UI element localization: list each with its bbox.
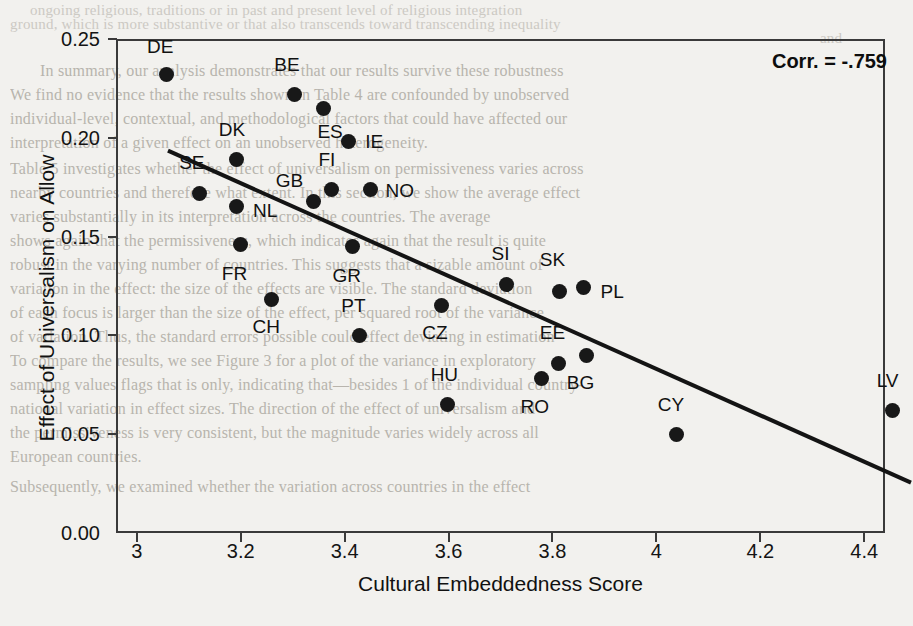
data-point-de	[159, 67, 174, 82]
x-tick-label: 3.8	[539, 540, 567, 563]
y-tick-mark	[108, 137, 117, 139]
point-label-gr: GR	[332, 265, 361, 287]
y-tick-mark	[108, 334, 117, 336]
point-label-de: DE	[147, 36, 173, 58]
point-label-ch: CH	[252, 316, 279, 338]
x-axis-label: Cultural Embeddedness Score	[116, 572, 885, 596]
point-label-ro: RO	[521, 396, 550, 418]
data-point-cz	[434, 298, 449, 313]
point-label-pt: PT	[341, 295, 365, 317]
x-tick-label: 4.4	[850, 540, 878, 563]
point-label-cz: CZ	[422, 322, 447, 344]
data-point-cy	[669, 427, 684, 442]
y-tick-label: 0.00	[0, 522, 100, 545]
data-point-gr	[345, 239, 360, 254]
point-label-be: BE	[274, 54, 299, 76]
x-tick-label: 4.2	[746, 540, 774, 563]
y-axis-label: Effect of Universalism on Allow	[35, 88, 59, 508]
point-label-bg: BG	[567, 372, 594, 394]
point-label-lv: LV	[877, 370, 899, 392]
y-tick-mark	[108, 433, 117, 435]
point-label-fi: FI	[319, 149, 336, 171]
point-label-sk: SK	[540, 249, 565, 271]
data-point-fi	[324, 182, 339, 197]
y-tick-label: 0.25	[0, 28, 100, 51]
data-point-hu	[440, 397, 455, 412]
point-label-ee: EE	[540, 322, 565, 344]
data-point-es	[316, 101, 331, 116]
data-point-pt	[352, 328, 367, 343]
x-tick-label: 3	[131, 540, 142, 563]
data-point-nl	[229, 199, 244, 214]
point-label-gb: GB	[276, 170, 303, 192]
data-point-bg	[579, 348, 594, 363]
point-label-dk: DK	[219, 119, 245, 141]
x-tick-label: 3.4	[331, 540, 359, 563]
point-label-ie: IE	[365, 131, 383, 153]
data-point-be	[287, 87, 302, 102]
point-label-nl: NL	[253, 200, 277, 222]
y-tick-mark	[108, 38, 117, 40]
data-point-ee	[551, 356, 566, 371]
data-point-dk	[229, 152, 244, 167]
x-tick-label: 3.2	[227, 540, 255, 563]
point-label-se: SE	[179, 152, 204, 174]
y-tick-mark	[108, 236, 117, 238]
point-label-no: NO	[385, 180, 414, 202]
correlation-annotation: Corr. = -.759	[772, 50, 887, 73]
data-point-se	[192, 186, 207, 201]
x-tick-label: 3.6	[435, 540, 463, 563]
point-label-hu: HU	[431, 364, 458, 386]
data-point-fr	[233, 237, 248, 252]
point-label-pl: PL	[601, 281, 624, 303]
scatter-plot-figure: 0.000.050.100.150.200.25 33.23.43.63.844…	[0, 0, 913, 626]
data-point-si	[499, 277, 514, 292]
data-point-gb	[306, 194, 321, 209]
point-label-si: SI	[492, 243, 510, 265]
point-label-cy: CY	[658, 394, 684, 416]
point-label-fr: FR	[222, 263, 247, 285]
point-label-es: ES	[317, 121, 342, 143]
data-point-no	[363, 182, 378, 197]
x-tick-label: 4	[651, 540, 662, 563]
